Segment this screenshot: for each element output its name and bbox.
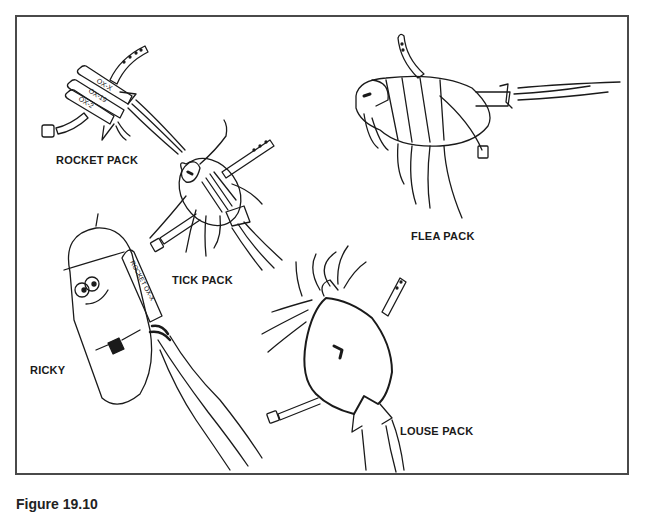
label-rocket-pack: ROCKET PACK — [56, 154, 138, 166]
tube-label-3: OX-2 — [77, 95, 95, 110]
label-flea-pack: FLEA PACK — [411, 230, 475, 242]
louse-pack-drawing — [262, 246, 406, 472]
figure-caption: Figure 19.10 — [16, 496, 98, 512]
ricky-drawing: ROCKET OX-X — [64, 214, 262, 470]
flea-pack-drawing — [356, 34, 620, 218]
rocket-pack-drawing: OX-X OX-19 OX-2 — [42, 46, 185, 154]
tick-pack-drawing — [150, 120, 282, 270]
label-tick-pack: TICK PACK — [172, 274, 233, 286]
ricky-rocket-label: ROCKET OX-X — [129, 259, 156, 302]
label-ricky: RICKY — [30, 364, 65, 376]
label-louse-pack: LOUSE PACK — [400, 425, 473, 437]
